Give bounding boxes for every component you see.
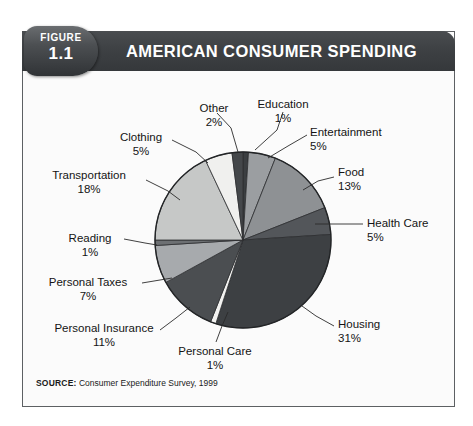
pie-label-personal-insurance-pct: 11% <box>42 336 166 350</box>
pie-label-personal-insurance-name: Personal Insurance <box>42 322 166 336</box>
pie-label-education: Education 1% <box>247 98 319 125</box>
source-label: SOURCE: <box>36 378 77 388</box>
pie-label-education-name: Education <box>247 98 319 112</box>
badge-number: 1.1 <box>24 44 98 63</box>
pie-label-education-pct: 1% <box>247 112 319 126</box>
pie-label-clothing: Clothing 5% <box>106 131 176 158</box>
pie-label-clothing-name: Clothing <box>106 131 176 145</box>
pie-label-personal-care: Personal Care 1% <box>163 345 267 372</box>
source-note: SOURCE: Consumer Expenditure Survey, 199… <box>36 378 218 388</box>
pie-label-other-pct: 2% <box>178 116 250 130</box>
pie-label-transportation: Transportation 18% <box>35 169 143 196</box>
pie-label-personal-taxes-pct: 7% <box>36 290 140 304</box>
pie-label-entertainment: Entertainment 5% <box>310 126 406 153</box>
pie-label-clothing-pct: 5% <box>106 145 176 159</box>
pie-label-reading-name: Reading <box>57 232 123 246</box>
pie-label-transportation-pct: 18% <box>35 183 143 197</box>
pie-label-food: Food 13% <box>338 166 408 193</box>
pie-label-personal-insurance: Personal Insurance 11% <box>42 322 166 349</box>
pie-label-entertainment-pct: 5% <box>310 140 406 154</box>
pie-label-housing: Housing 31% <box>338 318 408 345</box>
pie-label-personal-care-name: Personal Care <box>163 345 267 359</box>
pie-label-personal-care-pct: 1% <box>163 359 267 373</box>
pie-label-reading-pct: 1% <box>57 246 123 260</box>
source-value: Consumer Expenditure Survey, 1999 <box>77 378 218 388</box>
pie-label-housing-pct: 31% <box>338 332 408 346</box>
figure-number-badge: FIGURE 1.1 <box>24 26 98 76</box>
pie-label-housing-name: Housing <box>338 318 408 332</box>
pie-label-food-name: Food <box>338 166 408 180</box>
pie-label-health-care: Health Care 5% <box>367 217 453 244</box>
badge-word: FIGURE <box>24 32 98 44</box>
figure-title: AMERICAN CONSUMER SPENDING <box>126 31 445 71</box>
pie-label-health-care-pct: 5% <box>367 231 453 245</box>
pie-label-entertainment-name: Entertainment <box>310 126 406 140</box>
pie-label-personal-taxes: Personal Taxes 7% <box>36 276 140 303</box>
pie-label-reading: Reading 1% <box>57 232 123 259</box>
pie-label-other-name: Other <box>178 102 250 116</box>
pie-label-other: Other 2% <box>178 102 250 129</box>
pie-label-personal-taxes-name: Personal Taxes <box>36 276 140 290</box>
pie-label-health-care-name: Health Care <box>367 217 453 231</box>
pie-label-food-pct: 13% <box>338 180 408 194</box>
pie-label-transportation-name: Transportation <box>35 169 143 183</box>
